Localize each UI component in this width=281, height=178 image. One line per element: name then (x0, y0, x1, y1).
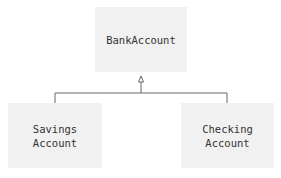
inheritance-arrow-icon (139, 76, 144, 82)
inheritance-connectors (0, 0, 281, 178)
